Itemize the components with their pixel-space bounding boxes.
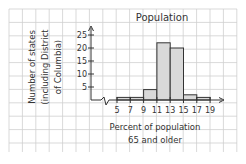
x-tick-label: 5 <box>114 106 119 115</box>
histogram-chart: 510152025 5791113151719 Population Numbe… <box>0 0 246 164</box>
y-axis-label-line: of Columbia) <box>53 40 63 94</box>
y-tick-label: 20 <box>77 44 87 53</box>
histogram-bar <box>170 48 183 100</box>
x-tick-label: 17 <box>192 106 202 115</box>
histogram-bar <box>184 95 197 100</box>
x-tick-label: 13 <box>165 106 175 115</box>
x-tick-label: 19 <box>205 106 215 115</box>
y-tick-label: 10 <box>77 70 87 79</box>
y-tick-label: 5 <box>82 83 87 92</box>
x-axis-label: Percent of population65 and older <box>110 122 201 145</box>
y-axis-label-line: Number of states <box>27 30 37 104</box>
y-tick-label: 15 <box>77 57 87 66</box>
x-axis-label-line: Percent of population <box>110 122 201 132</box>
x-axis-label-line: 65 and older <box>128 135 182 145</box>
x-tick-label: 11 <box>152 106 162 115</box>
chart-title: Population <box>136 12 189 23</box>
x-tick-label: 9 <box>141 106 146 115</box>
x-tick-label: 7 <box>128 106 133 115</box>
chart-canvas: 510152025 5791113151719 Population Numbe… <box>0 0 246 164</box>
histogram-bars <box>117 43 210 100</box>
y-axis-label: Number of states(including Districtof Co… <box>27 29 63 105</box>
x-tick-label: 15 <box>178 106 188 115</box>
y-axis-label-line: (including District <box>40 29 50 105</box>
y-tick-label: 25 <box>77 31 87 40</box>
histogram-bar <box>157 43 170 100</box>
histogram-bar <box>144 90 157 100</box>
